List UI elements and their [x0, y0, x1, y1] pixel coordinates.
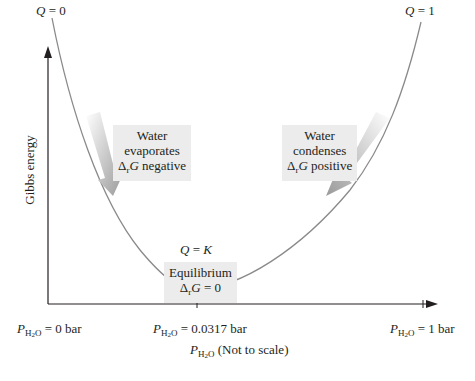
equilibrium-box: Equilibrium ΔrG = 0 — [164, 262, 237, 303]
tick-label-1: PH2O = 1 bar — [390, 321, 455, 343]
tick-label-0317: PH2O = 0.0317 bar — [153, 321, 247, 343]
q-zero-label: Q = 0 — [36, 3, 66, 18]
y-axis-arrow-icon — [44, 46, 52, 58]
q-one-label: Q = 1 — [405, 3, 435, 18]
y-axis-label: Gibbs energy — [22, 135, 38, 204]
x-axis-label: PH2O (Not to scale) — [190, 342, 288, 364]
condenses-box: Water condenses ΔrG positive — [282, 125, 357, 181]
evaporates-box: Water evaporates ΔrG negative — [113, 125, 191, 181]
q-equals-k-label: Q = K — [180, 242, 212, 257]
x-axis-arrow-icon — [426, 300, 438, 308]
tick-label-0: PH2O = 0 bar — [17, 321, 82, 343]
